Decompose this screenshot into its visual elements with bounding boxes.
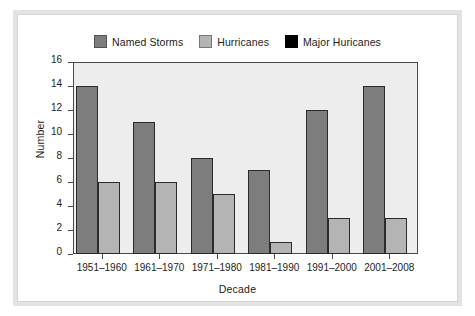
bar (98, 182, 120, 254)
bar (270, 242, 292, 254)
x-axis-tick-mark (389, 254, 390, 259)
bar (76, 86, 98, 254)
x-axis-tick-label: 1951–1960 (77, 262, 127, 273)
x-axis-tick-mark (274, 254, 275, 259)
y-axis-title: Number (34, 99, 46, 179)
bar (248, 170, 270, 254)
x-axis-tick-label: 1971–1980 (192, 262, 242, 273)
bar (133, 122, 155, 254)
x-axis-tick-mark (102, 254, 103, 259)
bar (306, 110, 328, 254)
x-axis-tick-label: 1961–1970 (134, 262, 184, 273)
y-axis-tick-label: 0 (56, 247, 62, 257)
bar (155, 182, 177, 254)
plot-wrapper: Number Decade 02468101214161951–19601961… (18, 15, 457, 301)
y-axis-tick-label: 16 (51, 55, 62, 65)
y-axis-tick-label: 12 (51, 103, 62, 113)
y-axis-tick-label: 4 (56, 199, 62, 209)
x-axis-tick-mark (217, 254, 218, 259)
x-axis-tick-mark (159, 254, 160, 259)
y-axis-tick-label: 6 (56, 175, 62, 185)
x-axis-title: Decade (18, 283, 457, 295)
y-axis-tick-label: 2 (56, 223, 62, 233)
bar (385, 218, 407, 254)
y-axis-tick-label: 10 (51, 127, 62, 137)
x-axis-tick-label: 1981–1990 (249, 262, 299, 273)
y-axis-tick-label: 14 (51, 79, 62, 89)
bar (363, 86, 385, 254)
bar (191, 158, 213, 254)
x-axis-tick-mark (332, 254, 333, 259)
y-axis-tick-label: 8 (56, 151, 62, 161)
chart-canvas: Named StormsHurricanesMajor Huricanes Nu… (17, 14, 458, 302)
bar (328, 218, 350, 254)
picture-frame-border: Named StormsHurricanesMajor Huricanes Nu… (13, 10, 462, 306)
y-axis-tick-mark (68, 254, 73, 255)
chart-page: Named StormsHurricanesMajor Huricanes Nu… (0, 0, 475, 316)
bar (213, 194, 235, 254)
x-axis-tick-label: 1991–2000 (307, 262, 357, 273)
x-axis-tick-label: 2001–2008 (364, 262, 414, 273)
